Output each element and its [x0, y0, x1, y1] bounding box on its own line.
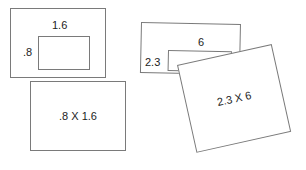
top-dimension-label-group-1: 1.6 — [52, 20, 67, 31]
inner-rectangle-group-1[interactable] — [38, 36, 90, 70]
side-dimension-label-group-2: 2.3 — [145, 57, 160, 68]
product-expression-label-group-2: 2.3 X 6 — [177, 44, 291, 153]
top-dimension-label-group-2: 6 — [198, 37, 204, 48]
side-dimension-label-group-1: .8 — [23, 47, 32, 58]
product-expression-label-group-1: .8 X 1.6 — [30, 81, 126, 151]
diagram-canvas: 1.6 .8 .8 X 1.6 6 2.3 2.3 X 6 — [0, 0, 306, 170]
